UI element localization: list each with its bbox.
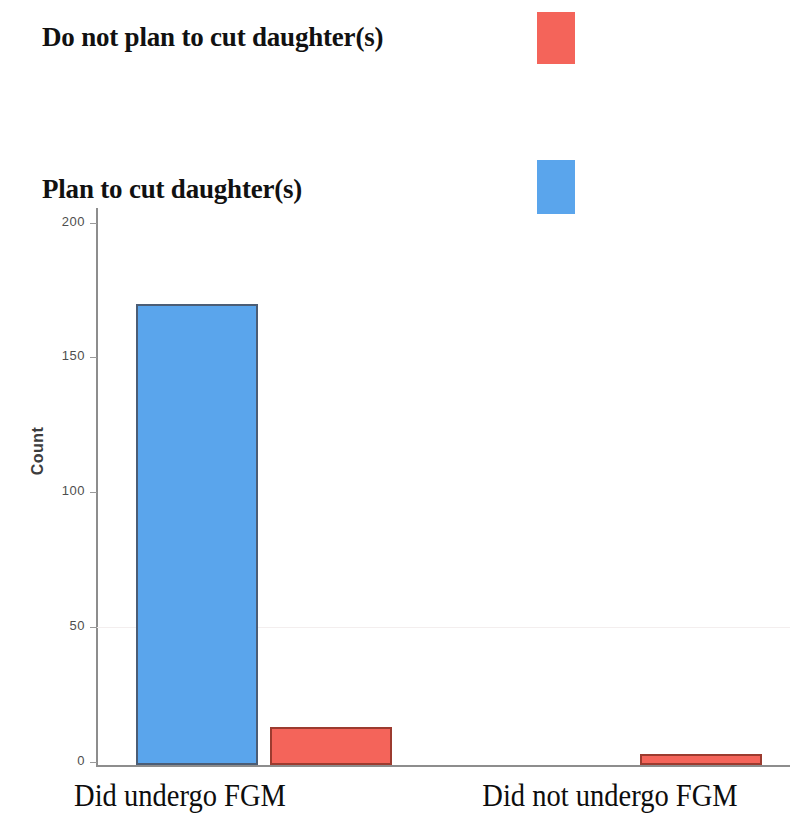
legend-label-do-not-plan: Do not plan to cut daughter(s) — [42, 22, 383, 53]
x-axis-label-did-not-undergo-fgm: Did not undergo FGM — [435, 778, 785, 814]
y-tick-150: 150 — [0, 357, 97, 358]
bar-red-group-2 — [640, 754, 762, 765]
x-axis-label-did-undergo-fgm: Did undergo FGM — [14, 778, 345, 814]
y-tick-label-200: 200 — [62, 214, 85, 229]
y-tick-label-50: 50 — [70, 618, 85, 633]
y-tick-100: 100 — [0, 492, 97, 493]
y-tick-200: 200 — [0, 223, 97, 224]
chart-page: Do not plan to cut daughter(s) Plan to c… — [0, 0, 801, 837]
legend-swatch-red — [537, 12, 575, 64]
y-axis-title: Count — [29, 396, 47, 506]
y-tick-mark-100 — [90, 492, 97, 493]
y-tick-mark-50 — [90, 627, 97, 628]
legend-item-plan: Plan to cut daughter(s) — [0, 80, 801, 136]
bar-chart: Count 200 150 100 50 0 Did undergo F — [0, 170, 801, 837]
y-tick-label-100: 100 — [62, 483, 85, 498]
y-tick-50: 50 — [0, 627, 97, 628]
chart-legend: Do not plan to cut daughter(s) Plan to c… — [0, 0, 801, 170]
y-tick-mark-150 — [90, 357, 97, 358]
x-axis-line — [96, 765, 790, 767]
y-tick-0: 0 — [0, 762, 97, 763]
y-axis-line — [96, 208, 98, 766]
bar-blue-group-1 — [136, 304, 258, 765]
y-tick-mark-200 — [90, 223, 97, 224]
bar-red-group-1 — [270, 727, 392, 765]
y-tick-label-150: 150 — [62, 348, 85, 363]
legend-item-do-not-plan: Do not plan to cut daughter(s) — [0, 4, 801, 60]
y-tick-label-0: 0 — [77, 753, 85, 768]
y-tick-mark-0 — [90, 762, 97, 763]
